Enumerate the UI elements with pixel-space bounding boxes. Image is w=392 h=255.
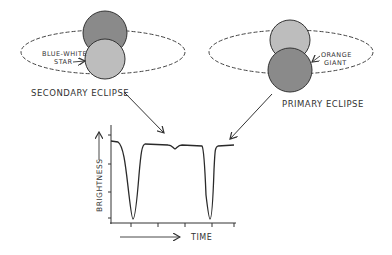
orange-giant-label-line2: GIANT — [324, 59, 347, 67]
secondary-eclipse-arrow — [124, 92, 164, 133]
blue-white-label-line2: STAR — [54, 58, 73, 66]
light-curve-chart: BRIGHTNESS TIME — [95, 125, 236, 242]
blue-white-pointer — [73, 61, 85, 62]
secondary-eclipse-panel: BLUE-WHITE STAR SECONDARY ECLIPSE — [21, 11, 185, 98]
primary-eclipse-arrow — [230, 94, 272, 139]
orange-giant-front — [268, 48, 312, 92]
secondary-eclipse-title: SECONDARY ECLIPSE — [31, 88, 129, 98]
orange-giant-pointer — [312, 56, 320, 62]
brightness-axis-label: BRIGHTNESS — [95, 159, 104, 212]
orange-giant-label-line1: ORANGE — [321, 51, 352, 59]
blue-white-label-line1: BLUE-WHITE — [42, 50, 87, 58]
primary-eclipse-title: PRIMARY ECLIPSE — [282, 99, 364, 109]
blue-white-star-front — [85, 39, 125, 79]
time-axis-label: TIME — [190, 233, 212, 242]
eclipsing-binary-diagram: BLUE-WHITE STAR SECONDARY ECLIPSE ORANGE… — [0, 0, 392, 255]
primary-eclipse-panel: ORANGE GIANT PRIMARY ECLIPSE — [209, 20, 373, 109]
brightness-curve — [111, 141, 234, 219]
